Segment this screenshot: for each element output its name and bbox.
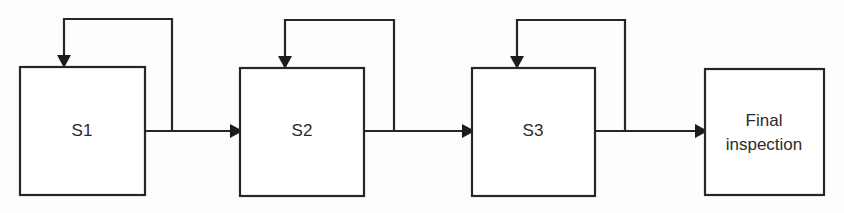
node-s1-label: S1 <box>72 121 93 140</box>
node-final-inspection[interactable]: Final inspection <box>705 69 824 195</box>
node-s1[interactable]: S1 <box>20 67 145 195</box>
node-final-inspection-label-line1: Final <box>746 111 783 130</box>
node-s3[interactable]: S3 <box>472 68 595 196</box>
diagram-canvas: S1 S2 S3 Final inspection <box>0 0 844 213</box>
connector-s2-to-s3 <box>364 124 475 138</box>
process-flow-diagram: S1 S2 S3 Final inspection <box>0 0 844 213</box>
node-final-inspection-label-line2: inspection <box>726 135 803 154</box>
connector-s3-to-final-inspection <box>595 124 708 138</box>
node-s2[interactable]: S2 <box>240 68 364 196</box>
node-final-inspection-box[interactable] <box>705 69 824 195</box>
node-s2-label: S2 <box>292 121 313 140</box>
connector-s1-to-s2 <box>145 124 243 138</box>
node-s3-label: S3 <box>523 121 544 140</box>
